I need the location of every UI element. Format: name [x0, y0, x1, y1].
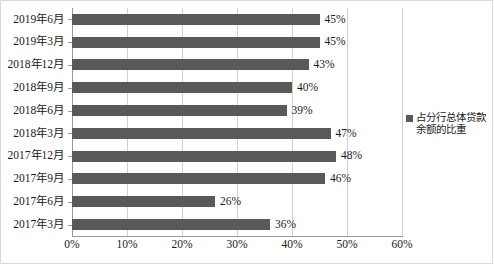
bar — [72, 173, 325, 184]
y-axis-label: 2019年6月 — [0, 8, 64, 31]
bar-value-label: 45% — [325, 14, 346, 26]
bar — [72, 82, 292, 93]
y-axis-label: 2017年9月 — [0, 168, 64, 191]
y-axis-tickmark — [68, 65, 72, 66]
y-axis-tickmark — [68, 179, 72, 180]
x-axis-line — [72, 236, 403, 237]
bar — [72, 14, 320, 25]
bar-chart: 2019年6月2019年3月2018年12月2018年9月2018年6月2018… — [0, 0, 494, 265]
y-axis-category-labels: 2019年6月2019年3月2018年12月2018年9月2018年6月2018… — [0, 8, 68, 236]
y-axis-label: 2018年9月 — [0, 76, 64, 99]
bar — [72, 196, 215, 207]
bar-value-label: 47% — [336, 128, 357, 140]
y-axis-tickmark — [68, 42, 72, 43]
bar-row: 43% — [72, 54, 402, 77]
y-axis-label: 2017年6月 — [0, 190, 64, 213]
bar-value-label: 46% — [330, 173, 351, 185]
y-axis-label: 2019年3月 — [0, 31, 64, 54]
y-axis-label: 2018年12月 — [0, 54, 64, 77]
bar-value-label: 26% — [220, 196, 241, 208]
x-axis-tick-label: 50% — [336, 239, 357, 251]
bar-row: 45% — [72, 31, 402, 54]
y-axis-tickmark — [68, 111, 72, 112]
legend: 占分行总体贷款余额的比重 — [406, 112, 490, 136]
bar-value-label: 48% — [341, 150, 362, 162]
bar-row: 48% — [72, 145, 402, 168]
y-axis-tickmark — [68, 19, 72, 20]
bar-value-label: 39% — [292, 105, 313, 117]
bar-value-label: 45% — [325, 36, 346, 48]
x-axis-tick-label: 60% — [391, 239, 412, 251]
x-axis-tick-label: 40% — [281, 239, 302, 251]
bar — [72, 59, 309, 70]
bar-row: 40% — [72, 76, 402, 99]
bar-row: 47% — [72, 122, 402, 145]
bar-row: 36% — [72, 213, 402, 236]
y-axis-tickmark — [68, 225, 72, 226]
bar-row: 45% — [72, 8, 402, 31]
bar — [72, 128, 331, 139]
y-axis-tickmark — [68, 202, 72, 203]
bar — [72, 219, 270, 230]
x-axis-tick-label: 30% — [226, 239, 247, 251]
legend-swatch-icon — [406, 115, 413, 122]
plot-area: 45%45%43%40%39%47%48%46%26%36% — [72, 8, 402, 236]
y-axis-label: 2017年3月 — [0, 213, 64, 236]
bar-row: 39% — [72, 99, 402, 122]
bar — [72, 151, 336, 162]
bar-row: 46% — [72, 168, 402, 191]
bar — [72, 105, 287, 116]
bar-row: 26% — [72, 190, 402, 213]
bar-value-label: 36% — [275, 219, 296, 231]
bar-value-label: 40% — [297, 82, 318, 94]
legend-label: 占分行总体贷款余额的比重 — [416, 112, 488, 136]
x-axis-tick-label: 20% — [171, 239, 192, 251]
y-axis-tickmark — [68, 88, 72, 89]
x-axis-tick-label: 10% — [116, 239, 137, 251]
y-axis-tickmark — [68, 156, 72, 157]
y-axis-label: 2018年3月 — [0, 122, 64, 145]
x-axis-tick-labels: 0%10%20%30%40%50%60% — [72, 239, 403, 255]
y-axis-label: 2017年12月 — [0, 145, 64, 168]
bar-value-label: 43% — [314, 59, 335, 71]
gridline-60% — [402, 8, 403, 236]
bar — [72, 37, 320, 48]
y-axis-label: 2018年6月 — [0, 99, 64, 122]
y-axis-tickmark — [68, 133, 72, 134]
x-axis-tick-label: 0% — [64, 239, 79, 251]
